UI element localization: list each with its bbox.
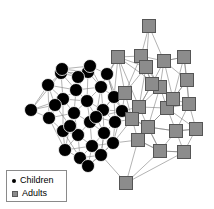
graph-node-child[interactable] bbox=[101, 68, 114, 81]
graph-node-adult[interactable] bbox=[133, 101, 146, 114]
graph-node-child[interactable] bbox=[82, 160, 95, 173]
graph-node-child[interactable] bbox=[90, 111, 103, 124]
graph-node-adult[interactable] bbox=[120, 177, 133, 190]
graph-node-child[interactable] bbox=[98, 127, 111, 140]
graph-node-child[interactable] bbox=[81, 95, 94, 108]
graph-node-adult[interactable] bbox=[126, 113, 139, 126]
graph-node-adult[interactable] bbox=[132, 134, 145, 147]
graph-node-child[interactable] bbox=[43, 112, 56, 125]
graph-node-adult[interactable] bbox=[140, 61, 153, 74]
graph-node-child[interactable] bbox=[25, 104, 38, 117]
graph-node-adult[interactable] bbox=[143, 20, 156, 33]
graph-node-child[interactable] bbox=[70, 84, 83, 97]
graph-node-adult[interactable] bbox=[178, 51, 191, 64]
graph-node-adult[interactable] bbox=[146, 78, 159, 91]
children-marker-icon bbox=[12, 179, 16, 183]
graph-node-child[interactable] bbox=[56, 63, 69, 76]
network-graph-figure: Children Adults bbox=[0, 0, 214, 209]
graph-node-child[interactable] bbox=[64, 120, 77, 133]
graph-node-adult[interactable] bbox=[170, 125, 183, 138]
graph-node-adult[interactable] bbox=[183, 98, 196, 111]
legend-label-adults: Adults bbox=[22, 189, 47, 198]
graph-node-child[interactable] bbox=[95, 81, 108, 94]
graph-node-child[interactable] bbox=[84, 60, 97, 73]
graph-node-child[interactable] bbox=[68, 107, 81, 120]
graph-node-child[interactable] bbox=[107, 137, 120, 150]
legend-item-adults: Adults bbox=[11, 187, 62, 200]
adults-marker-icon bbox=[12, 191, 18, 197]
graph-node-adult[interactable] bbox=[154, 145, 167, 158]
legend-label-children: Children bbox=[20, 176, 54, 185]
legend: Children Adults bbox=[6, 170, 67, 202]
graph-node-child[interactable] bbox=[42, 79, 55, 92]
graph-node-child[interactable] bbox=[49, 99, 62, 112]
graph-node-adult[interactable] bbox=[142, 121, 155, 134]
graph-node-child[interactable] bbox=[95, 149, 108, 162]
graph-node-adult[interactable] bbox=[112, 51, 125, 64]
legend-item-children: Children bbox=[11, 174, 62, 187]
graph-node-adult[interactable] bbox=[178, 146, 191, 159]
graph-node-child[interactable] bbox=[59, 144, 72, 157]
graph-node-child[interactable] bbox=[72, 71, 85, 84]
graph-node-adult[interactable] bbox=[190, 123, 203, 136]
graph-node-adult[interactable] bbox=[119, 87, 132, 100]
graph-node-adult[interactable] bbox=[167, 93, 180, 106]
graph-node-adult[interactable] bbox=[181, 74, 194, 87]
graph-node-adult[interactable] bbox=[158, 55, 171, 68]
graph-nodes-layer bbox=[25, 20, 203, 190]
